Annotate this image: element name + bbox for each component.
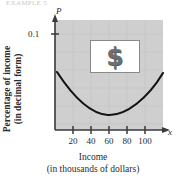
curve-percentage-of-income <box>57 72 163 115</box>
y-axis-title-line2: (in decimal form) <box>13 29 24 149</box>
x-tick-label-0: 20 <box>64 137 82 146</box>
x-axis-title-line1: Income <box>18 152 168 164</box>
y-tick-label-0: 0.1 <box>28 30 39 39</box>
x-axis-title-line2: (in thousands of dollars) <box>18 164 168 176</box>
dollar-sign-icon: $ <box>106 44 123 69</box>
dollar-callout-box: $ <box>90 40 140 73</box>
x-tick-label-4: 100 <box>134 137 156 146</box>
figure-income-tax-chart: EXAMPLE 5 <box>0 0 177 181</box>
x-axis-title: Income (in thousands of dollars) <box>18 152 168 175</box>
y-axis-title: Percentage of income (in decimal form) <box>2 29 24 149</box>
y-axis-letter: P <box>56 7 62 16</box>
x-tick-label-2: 60 <box>100 137 118 146</box>
x-tick-label-1: 40 <box>82 137 100 146</box>
x-axis-letter: x <box>168 128 172 137</box>
y-axis-title-line1: Percentage of income <box>2 46 12 132</box>
